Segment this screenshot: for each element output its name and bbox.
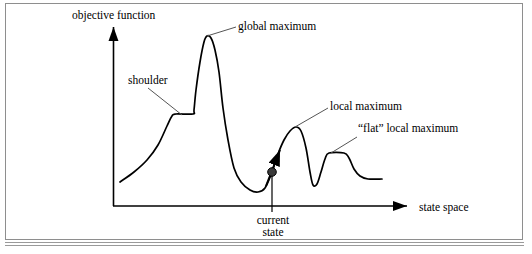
local-maximum-leader-line [295, 108, 328, 127]
current-state-dot [268, 168, 277, 177]
current-state-group [266, 150, 280, 212]
objective-function-curve [120, 36, 382, 192]
annotation-global-maximum: global maximum [238, 20, 316, 32]
landscape-curve-group [120, 36, 382, 192]
leader-lines-group [148, 27, 357, 153]
global-maximum-leader-line [207, 27, 236, 36]
annotation-flat-local-maximum: “flat” local maximum [358, 122, 458, 134]
annotation-current-state-line2: state [246, 226, 300, 238]
page-rule-divider [5, 242, 524, 246]
y-axis-label: objective function [72, 9, 155, 21]
annotation-local-maximum: local maximum [330, 100, 402, 112]
flat-local-maximum-leader-line [331, 137, 357, 153]
shoulder-leader-line [148, 88, 182, 115]
annotation-current-state-line1: current [257, 214, 290, 226]
annotation-current-state: current state [246, 214, 300, 238]
annotation-shoulder: shoulder [128, 74, 168, 86]
axes-group [113, 27, 407, 206]
figure-root: objective function state space shoulder … [0, 0, 532, 254]
x-axis-label: state space [419, 201, 469, 213]
